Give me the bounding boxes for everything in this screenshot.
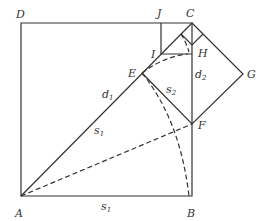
dashed-af [21, 124, 192, 196]
diagonal-ac [21, 23, 192, 196]
label-j: J [155, 7, 162, 20]
label-e: E [127, 67, 136, 80]
label-i: I [150, 48, 156, 61]
label-g: G [247, 68, 256, 81]
arc-ih [142, 54, 188, 73]
label-s1-base: s1 [101, 200, 111, 214]
label-a: A [14, 207, 23, 220]
arc-small [181, 34, 189, 52]
label-d: D [15, 8, 25, 21]
label-d1: d1 [102, 88, 114, 102]
label-b: B [186, 207, 195, 220]
label-s2: s2 [166, 83, 177, 97]
label-c: C [186, 7, 195, 20]
label-f: F [197, 119, 206, 132]
label-d2: d2 [195, 68, 207, 82]
label-h: H [197, 47, 208, 60]
label-s1-diagonal: s1 [94, 124, 104, 138]
geometry-diagram: A B C D E F G H I J d1 d2 s1 s1 s2 [0, 0, 266, 221]
